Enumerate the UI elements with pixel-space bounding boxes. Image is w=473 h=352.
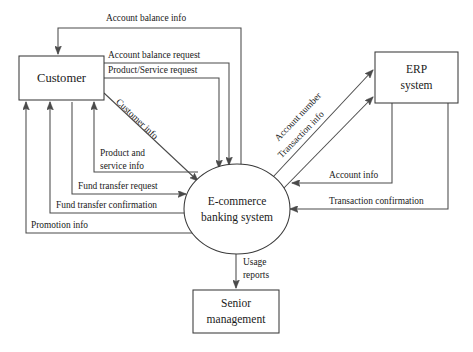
flow-label-transaction-confirmation: Transaction confirmation — [329, 196, 424, 206]
node-ecommerce-banking-system-label-line2: banking system — [201, 211, 273, 224]
node-erp-system-label-line1: ERP — [406, 63, 427, 75]
node-senior-management-label-line2: management — [207, 313, 267, 326]
diagram-canvas: Customer ERP system E-commerce banking s… — [0, 0, 473, 352]
data-flow-diagram: Customer ERP system E-commerce banking s… — [0, 0, 473, 352]
flow-label-usage-reports-line1: Usage — [243, 257, 266, 267]
flow-label-product-service-request: Product/Service request — [108, 65, 198, 75]
flow-label-account-info: Account info — [329, 170, 379, 180]
node-erp-system-label-line2: system — [401, 79, 433, 92]
node-erp-system[interactable] — [375, 52, 458, 103]
flow-label-fund-transfer-confirmation: Fund transfer confirmation — [56, 200, 157, 210]
flow-label-customer-info: Customer info — [114, 97, 160, 142]
flow-label-promotion-info: Promotion info — [31, 220, 88, 230]
node-customer-label: Customer — [37, 71, 87, 85]
node-senior-management-label-line1: Senior — [221, 297, 251, 309]
flow-label-account-balance-info: Account balance info — [106, 13, 186, 23]
flow-label-product-and-service-info-line1: Product and — [100, 148, 145, 158]
flow-label-product-and-service-info-line2: service info — [100, 161, 144, 171]
node-ecommerce-banking-system[interactable] — [184, 164, 290, 254]
flow-label-fund-transfer-request: Fund transfer request — [78, 181, 158, 191]
flow-label-usage-reports-line2: reports — [243, 270, 269, 280]
flow-label-account-balance-request: Account balance request — [108, 50, 201, 60]
node-ecommerce-banking-system-label-line1: E-commerce — [208, 195, 267, 207]
